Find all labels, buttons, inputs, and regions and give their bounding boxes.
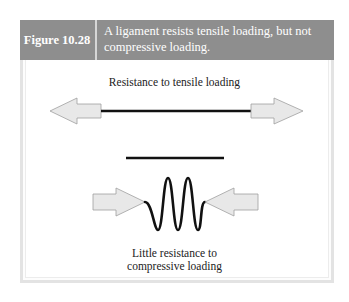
arrow-right-outward-icon	[251, 98, 303, 124]
tensile-label: Resistance to tensile loading	[0, 76, 349, 88]
compressive-label: Little resistance to compressive loading	[0, 247, 349, 273]
arrow-left-outward-icon	[50, 98, 101, 124]
arrow-left-inward-icon	[205, 188, 258, 216]
arrow-right-inward-icon	[93, 188, 145, 216]
compressive-label-line1: Little resistance to	[0, 247, 349, 260]
compressed-ligament-wave	[145, 178, 205, 230]
compressive-label-line2: compressive loading	[0, 260, 349, 273]
